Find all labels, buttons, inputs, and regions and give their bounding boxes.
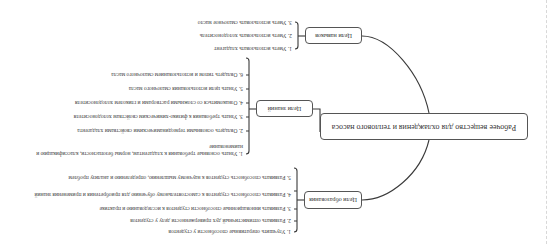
list-item: 1. Улучшить оперативные способности у ст…	[16, 228, 291, 235]
central-node[interactable]: Рабочее вещество для охлаждения и теплов…	[320, 113, 528, 140]
list-item: 4. Ознакомиться со сложными растворами и…	[3, 99, 243, 106]
list-item: 2. Уметь использовать холодоноситель	[92, 32, 292, 39]
branch-node-knowledge[interactable]: Цели знаний	[256, 100, 313, 117]
list-item: 4. Развивать способность студентов к сам…	[16, 191, 291, 198]
list-item: 2. Развивать оптимистичный дух привержен…	[16, 217, 291, 224]
list-item: 6. Овладеть типом и использованием смазо…	[3, 71, 243, 78]
list-item: 5. Узнать цели использования смазочного …	[3, 85, 243, 92]
branch-node-education[interactable]: Цели образования	[304, 191, 362, 209]
branch-label-knowledge: Цели знаний	[268, 105, 302, 112]
list-item: 3. Развивать инновационные способности с…	[16, 205, 291, 212]
branch-label-skills: Цели навыков	[315, 32, 352, 39]
list-item: 2. Овладеть основными термодинамическими…	[3, 127, 243, 134]
list-item: 3. Уметь использовать смазочное масло	[92, 19, 292, 26]
list-item: 3. Узнать требования к физико-химическим…	[3, 113, 243, 120]
branch-node-skills[interactable]: Цели навыков	[305, 27, 362, 44]
list-item: 1. Уметь использовать хладагент	[92, 45, 292, 52]
branch-label-education: Цели образования	[309, 197, 357, 204]
list-item: 1. Узнать основные требования к хладаген…	[8, 144, 243, 157]
mind-map-canvas: Рабочее вещество для охлаждения и теплов…	[0, 0, 549, 244]
central-node-label: Рабочее вещество для охлаждения и теплов…	[332, 122, 517, 131]
list-item: 5. Развивать способность студентов к нау…	[16, 174, 291, 181]
